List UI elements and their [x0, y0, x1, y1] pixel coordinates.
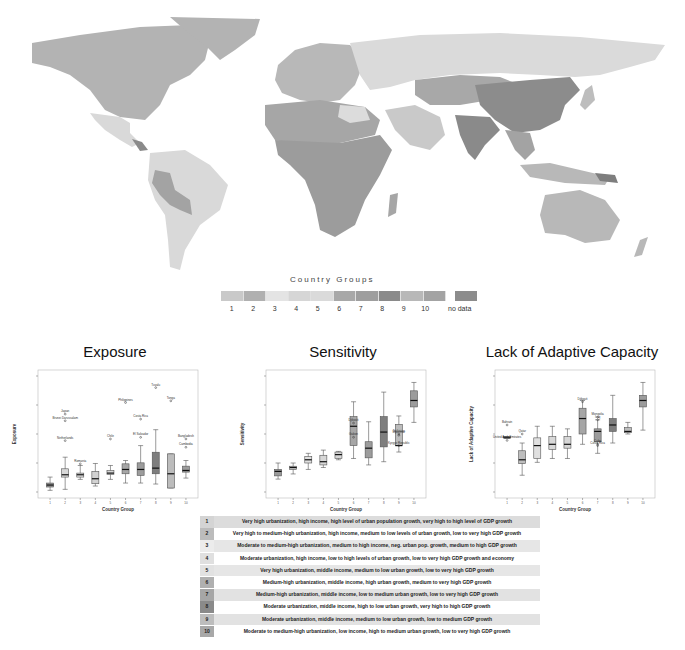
group-row-1: 1Very high urbanization, high income, hi… — [200, 516, 540, 528]
legend-label-1: 1 — [221, 305, 243, 312]
outlier-label: Bangladesh — [178, 434, 194, 438]
outlier-label: Chile — [107, 434, 114, 438]
group-row-6: 6Medium-high urbanization, middle income… — [200, 577, 540, 589]
group-row-2: 2Very high to medium-high urbanization, … — [200, 528, 540, 540]
legend-swatch-2 — [244, 291, 267, 301]
x-tick-label: 2 — [64, 501, 66, 505]
box-group-5 — [335, 451, 342, 459]
outlier-label: Costa Rica — [133, 414, 148, 418]
x-tick-label: 1 — [506, 501, 508, 505]
group-row-9: 9Moderate urbanization, middle income, m… — [200, 614, 540, 626]
group-row-3: 3Moderate to medium-high urbanization, m… — [200, 540, 540, 552]
legend-swatch-9 — [401, 291, 424, 301]
outlier-label: Kyrgyz Republic — [388, 441, 410, 445]
y-axis-label: Sensitivity — [240, 422, 245, 445]
outlier-label: Tonga — [167, 396, 176, 400]
legend-label-5: 5 — [307, 305, 329, 312]
group-description: Very high to medium-high urbanization, h… — [214, 528, 540, 540]
x-tick-label: 4 — [323, 501, 325, 505]
legend-swatch-7 — [356, 291, 379, 301]
x-tick-label: 4 — [95, 501, 97, 505]
exposure-plot-area: ExposureCountry Group12345678910Netherla… — [0, 343, 230, 513]
group-description: Very high urbanization, middle income, m… — [214, 565, 540, 577]
x-axis-label: Country Group — [102, 507, 134, 512]
group-description: Moderate urbanization, high income, low … — [214, 553, 540, 565]
outlier-label: Gabon — [349, 432, 358, 436]
map-region-middle-east — [385, 105, 445, 150]
x-tick-label: 10 — [412, 501, 416, 505]
x-tick-label: 6 — [125, 501, 127, 505]
group-number: 4 — [200, 553, 214, 565]
outlier-label: Qatar — [518, 429, 526, 433]
x-tick-label: 10 — [184, 501, 188, 505]
x-tick-label: 1 — [49, 501, 51, 505]
map-region-india — [455, 115, 500, 160]
x-tick-label: 4 — [552, 501, 554, 505]
x-tick-label: 9 — [627, 501, 629, 505]
legend-swatch-8 — [379, 291, 402, 301]
outlier-label: United Arab Emirates — [493, 435, 522, 439]
group-number: 7 — [200, 589, 214, 601]
group-description: Medium-high urbanization, middle income,… — [214, 577, 540, 589]
outlier-label: Brunei Darussalam — [52, 416, 78, 420]
x-tick-label: 5 — [567, 501, 569, 505]
legend-swatch-4 — [289, 291, 312, 301]
group-number: 8 — [200, 601, 214, 613]
y-axis-label: Lack of Adaptive Capacity — [469, 406, 474, 462]
outlier-label: Japan — [61, 409, 70, 413]
x-tick-label: 5 — [338, 501, 340, 505]
group-description: Moderate urbanization, middle income, hi… — [214, 601, 540, 613]
x-tick-label: 9 — [170, 501, 172, 505]
x-tick-label: 3 — [79, 501, 81, 505]
x-tick-label: 3 — [307, 501, 309, 505]
outlier-label: Netherlands — [57, 436, 74, 440]
x-tick-label: 9 — [398, 501, 400, 505]
legend-label-6: 6 — [329, 305, 351, 312]
outlier-label: Cuba — [594, 439, 602, 443]
world-choropleth-map — [20, 5, 670, 270]
y-axis-label: Exposure — [12, 423, 17, 444]
group-number: 6 — [200, 577, 214, 589]
x-tick-label: 8 — [383, 501, 385, 505]
legend-label-10: 10 — [415, 305, 437, 312]
legend-no-data-swatch — [455, 291, 477, 301]
legend-label-9: 9 — [393, 305, 415, 312]
x-tick-label: 3 — [536, 501, 538, 505]
group-description: Moderate to medium-high urbanization, me… — [214, 540, 540, 552]
sensitivity-plot-area: SensitivityCountry Group12345678910Djibo… — [228, 343, 458, 513]
plot-frame — [495, 370, 655, 498]
legend-color-bar — [221, 291, 446, 301]
map-region-madagascar — [388, 193, 398, 217]
group-row-5: 5Very high urbanization, middle income, … — [200, 565, 540, 577]
x-tick-label: 1 — [277, 501, 279, 505]
map-region-north-africa — [265, 100, 380, 145]
outlier-label: Bahrain — [502, 420, 513, 424]
adaptive-capacity-boxplot: Lack of Adaptive Capacity Lack of Adapti… — [457, 343, 685, 513]
legend-swatch-6 — [334, 291, 357, 301]
group-number: 3 — [200, 540, 214, 552]
group-number: 5 — [200, 565, 214, 577]
group-row-10: 10Moderate to medium-high urbanization, … — [200, 626, 540, 638]
adaptive-capacity-plot-area: Lack of Adaptive CapacityCountry Group12… — [457, 343, 685, 513]
x-axis-label: Country Group — [330, 507, 362, 512]
x-tick-label: 6 — [582, 501, 584, 505]
map-region-europe — [275, 43, 365, 103]
legend-label-3: 3 — [264, 305, 286, 312]
legend-title: Country Groups — [290, 275, 374, 284]
exposure-boxplot: Exposure ExposureCountry Group1234567891… — [0, 343, 230, 513]
x-tick-label: 6 — [353, 501, 355, 505]
outlier-label: Djibouti — [349, 418, 359, 422]
legend-no-data-label: no data — [448, 305, 471, 312]
map-region-australia — [540, 190, 620, 243]
group-row-4: 4Moderate urbanization, high income, low… — [200, 553, 540, 565]
group-description: Very high urbanization, high income, hig… — [214, 516, 540, 528]
legend-label-8: 8 — [372, 305, 394, 312]
map-region-new-zealand — [634, 237, 648, 257]
outlier-label: Cambodia — [179, 442, 193, 446]
x-tick-label: 5 — [110, 501, 112, 505]
outlier-label: Djibouti — [578, 397, 588, 401]
legend-swatch-10 — [424, 291, 447, 301]
group-description: Moderate to medium-high urbanization, lo… — [214, 626, 540, 638]
outlier-label: Iraq — [595, 415, 601, 419]
legend-label-4: 4 — [286, 305, 308, 312]
